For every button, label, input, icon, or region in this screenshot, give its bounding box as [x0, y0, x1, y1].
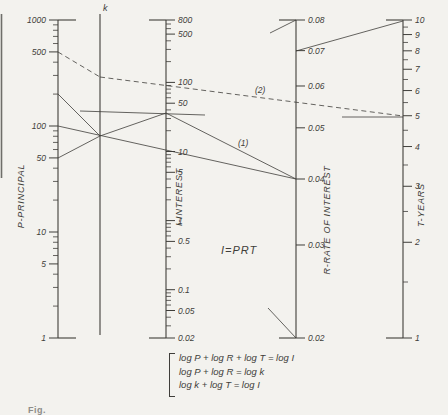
equation-bracket	[169, 353, 175, 397]
axis-R-tick-label: 0.02	[308, 333, 325, 343]
axis-R-title: R-RATE OF INTEREST	[322, 165, 332, 275]
index-line-reading-marker-I	[80, 111, 205, 115]
center-formula: I=PRT	[221, 244, 257, 256]
axis-R-tick-label: 0.05	[308, 123, 325, 133]
index-line-example-1-P200-to-k	[58, 94, 100, 136]
axis-I-tick-label: 0.1	[178, 285, 190, 295]
equation-line-1: log P + log R + log T = log I	[179, 351, 294, 365]
equation-line-3: log k + log T = log I	[179, 378, 294, 392]
axis-P-tick-label: 50	[37, 153, 47, 163]
index-line-label-example-2-k-to-T5: (2)	[255, 85, 266, 95]
axis-T-tick-label: 6	[415, 86, 420, 96]
axis-T-tick-label: 9	[415, 30, 420, 40]
index-line-example-2-k-to-T5	[100, 77, 403, 116]
axis-I-tick-label: 0.02	[178, 333, 195, 343]
equation-lines: log P + log R + log T = log I log P + lo…	[179, 351, 294, 397]
axis-T-tick-label: 10	[415, 15, 425, 25]
axis-I-title: I-INTEREST	[174, 167, 184, 226]
axis-k-title: k	[103, 3, 108, 13]
axis-T-tick-label: 7	[415, 64, 420, 74]
axis-T-title: T-YEARS	[416, 183, 426, 227]
axis-I-tick-label: 50	[178, 98, 188, 108]
index-line-line-to-R-bottom	[268, 308, 296, 338]
axis-P-tick-label: 5	[41, 259, 46, 269]
axis-I-tick-label: 10	[178, 147, 188, 157]
index-line-example-2-P500-to-k	[58, 52, 100, 77]
equation-block: log P + log R + log T = log I log P + lo…	[169, 351, 294, 397]
index-line-label-example-1-I-to-R004: (1)	[238, 138, 249, 148]
axis-P-tick-label: 100	[32, 121, 46, 131]
axis-P-tick-label: 500	[32, 47, 46, 57]
index-line-example-1-k-to-I	[100, 113, 166, 136]
axis-I-tick-label: 0.5	[178, 236, 190, 246]
axis-I-tick-label: 0.05	[178, 306, 195, 316]
index-line-line-to-R-top	[270, 20, 296, 33]
axis-R-tick-label: 0.08	[308, 15, 325, 25]
axis-T-tick-label: 2	[414, 237, 420, 247]
axis-I-tick-label: 500	[178, 29, 192, 39]
equation-line-2: log P + log R = log k	[179, 365, 294, 379]
axis-I-tick-label: 100	[178, 77, 192, 87]
figure-caption-clipped: Fig.	[28, 405, 46, 415]
axis-P-tick-label: 1000	[27, 15, 46, 25]
index-line-line-R007-to-T10	[296, 21, 403, 51]
index-line-example-1-P50-to-k	[58, 136, 100, 158]
axis-P-title: P-PRINCIPAL	[16, 164, 26, 229]
axis-P-tick-label: 10	[37, 227, 47, 237]
axis-T-tick-label: 5	[415, 111, 420, 121]
axis-T-tick-label: 8	[415, 46, 420, 56]
axis-T-tick-label: 1	[415, 333, 420, 343]
axis-P-tick-label: 1	[41, 333, 46, 343]
axis-T-tick-label: 4	[415, 142, 420, 152]
axis-I-tick-label: 800	[178, 15, 192, 25]
axis-R-tick-label: 0.06	[308, 81, 325, 91]
